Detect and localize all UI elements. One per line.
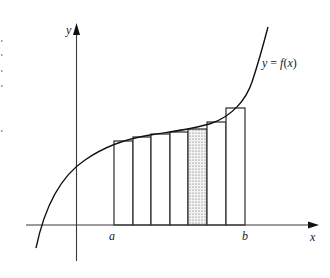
- riemann-sum-diagram: y x y = f(x) a b: [0, 0, 330, 278]
- rectangle-1: [114, 141, 133, 225]
- riemann-rectangles: [114, 108, 245, 225]
- x-axis-arrow-icon: [308, 222, 319, 229]
- margin-marks: [1, 40, 3, 132]
- y-axis-arrow-icon: [73, 23, 80, 35]
- rectangle-7: [226, 108, 245, 225]
- x-axis-label: x: [309, 230, 316, 244]
- b-label: b: [242, 229, 248, 243]
- y-axis-label: y: [65, 23, 72, 37]
- a-label: a: [109, 229, 115, 243]
- shaded-rectangle: [188, 129, 207, 225]
- rectangle-6: [207, 122, 226, 225]
- rectangle-3: [151, 134, 170, 225]
- curve-label: y = f(x): [261, 56, 297, 70]
- rectangle-4: [170, 132, 188, 225]
- rectangle-2: [133, 137, 151, 225]
